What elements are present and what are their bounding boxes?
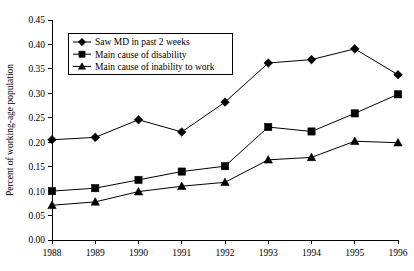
y-tick-label: 0.40 [28,40,45,50]
series-line [52,94,398,191]
marker-triangle [221,178,229,185]
marker-square [221,163,228,170]
marker-diamond [307,55,316,64]
legend-label: Saw MD in past 2 weeks [95,37,190,47]
legend-label: Main cause of inability to work [95,62,215,72]
x-tick-label: 1996 [389,248,408,258]
marker-square [79,51,85,57]
x-tick-label: 1992 [216,248,235,258]
y-tick-label: 0.25 [28,113,45,123]
y-tick-label: 0.00 [28,235,45,245]
marker-square [308,128,315,135]
marker-square [48,188,55,195]
marker-square [92,185,99,192]
marker-square [351,110,358,117]
marker-square [135,176,142,183]
y-tick-label: 0.10 [28,187,45,197]
series-3 [48,137,402,209]
marker-triangle [307,153,315,160]
marker-square [394,91,401,98]
marker-square [265,123,272,130]
x-tick-label: 1993 [259,248,278,258]
y-tick-label: 0.30 [28,89,45,99]
line-chart: 0.000.050.100.150.200.250.300.350.400.45… [0,0,414,271]
x-tick-label: 1995 [345,248,364,258]
y-axis-title: Percent of working-age population [5,64,15,196]
marker-diamond [177,128,186,137]
x-tick-label: 1991 [172,248,191,258]
x-tick-label: 1988 [43,248,62,258]
legend: Saw MD in past 2 weeksMain cause of disa… [68,33,232,74]
chart-canvas: 0.000.050.100.150.200.250.300.350.400.45… [0,0,414,271]
marker-diamond [350,45,359,54]
y-tick-label: 0.05 [28,211,45,221]
x-tick-label: 1990 [129,248,148,258]
series-line [52,141,398,205]
marker-diamond [394,70,403,79]
y-tick-label: 0.15 [28,162,45,172]
y-tick-label: 0.20 [28,138,45,148]
marker-diamond [134,115,143,124]
y-tick-label: 0.45 [28,15,45,25]
marker-square [178,168,185,175]
marker-triangle [351,137,359,144]
y-tick-label: 0.35 [28,64,45,74]
x-tick-label: 1989 [86,248,105,258]
marker-diamond [91,133,100,142]
marker-diamond [48,135,57,144]
legend-label: Main cause of disability [95,50,187,60]
x-tick-label: 1994 [302,248,321,258]
